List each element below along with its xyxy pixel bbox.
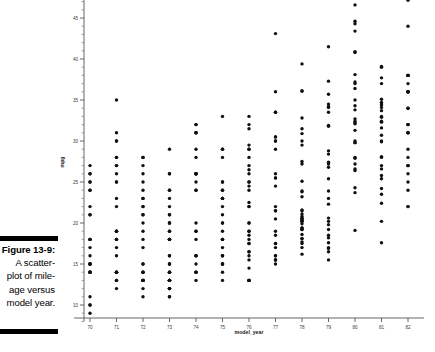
data-point (327, 228, 330, 231)
data-point (327, 234, 330, 237)
data-point (274, 234, 277, 237)
data-point (194, 131, 197, 134)
data-point (88, 254, 91, 257)
data-point (168, 172, 171, 175)
data-point (380, 187, 383, 190)
data-point (221, 156, 224, 159)
data-point (247, 234, 250, 237)
data-point (141, 279, 144, 282)
scatter-plot-figure: 1015202530354045 70717273747576777879808… (0, 0, 435, 352)
data-point (274, 246, 277, 249)
data-point (115, 156, 118, 159)
data-point (406, 82, 409, 85)
data-point (247, 230, 250, 233)
data-point (380, 202, 383, 205)
data-point (380, 193, 383, 196)
data-point (247, 123, 250, 126)
data-point (141, 164, 144, 167)
data-point (247, 164, 250, 167)
data-point (300, 143, 303, 146)
data-point (247, 238, 250, 241)
data-point (327, 197, 330, 200)
data-point (274, 205, 277, 208)
data-point (380, 140, 383, 143)
data-point (115, 139, 118, 142)
y-tick-label: 15 (73, 262, 79, 267)
data-point (221, 271, 224, 274)
data-point (115, 164, 118, 167)
x-axis-title: model_year (235, 329, 264, 335)
data-point (247, 127, 250, 130)
data-point (300, 212, 303, 215)
data-point (194, 254, 197, 257)
data-point (141, 262, 144, 265)
data-point (194, 262, 197, 265)
data-point (141, 180, 144, 183)
data-point (327, 216, 330, 219)
data-point (168, 197, 171, 200)
data-point (141, 230, 144, 233)
data-point (353, 73, 356, 76)
data-point (88, 312, 91, 315)
data-point (168, 254, 171, 257)
data-point (380, 177, 383, 180)
data-point (327, 166, 330, 169)
data-point (88, 164, 91, 167)
data-point (247, 172, 250, 175)
data-point (194, 172, 197, 175)
data-point (221, 197, 224, 200)
data-point (300, 62, 303, 65)
x-tick-label: 75 (220, 325, 226, 330)
data-point (327, 223, 330, 226)
data-point (353, 129, 356, 132)
data-point (353, 162, 356, 165)
data-point (247, 148, 250, 151)
data-point (274, 230, 277, 233)
data-point (300, 116, 303, 119)
y-axis: 1015202530354045 (73, 0, 84, 321)
data-point (141, 246, 144, 249)
data-point (353, 157, 356, 160)
data-point (380, 156, 383, 159)
data-point (141, 213, 144, 216)
y-tick-label: 35 (73, 98, 79, 103)
data-point (194, 189, 197, 192)
y-tick-label: 45 (73, 16, 79, 21)
y-tick-label: 20 (73, 221, 79, 226)
data-point (327, 241, 330, 244)
data-point (88, 180, 91, 183)
data-point (194, 221, 197, 224)
data-point (168, 148, 171, 151)
data-point (327, 258, 330, 261)
data-point (406, 180, 409, 183)
data-point (406, 123, 409, 126)
data-point (327, 45, 330, 48)
data-point (274, 135, 277, 138)
data-point (353, 141, 356, 144)
data-point (168, 221, 171, 224)
x-tick-label: 72 (140, 325, 146, 330)
data-point (380, 120, 383, 123)
x-tick-label: 70 (87, 325, 93, 330)
data-point (141, 295, 144, 298)
data-point (168, 262, 171, 265)
data-point (115, 98, 118, 101)
data-point (168, 230, 171, 233)
data-point (194, 271, 197, 274)
data-point (406, 164, 409, 167)
data-point (221, 180, 224, 183)
data-point (141, 189, 144, 192)
data-point (141, 271, 144, 274)
data-point (327, 111, 330, 114)
data-point (221, 279, 224, 282)
data-point (247, 242, 250, 245)
data-point (115, 197, 118, 200)
data-point (274, 217, 277, 220)
data-point (274, 176, 277, 179)
data-point (353, 229, 356, 232)
data-point (380, 164, 383, 167)
data-point (115, 180, 118, 183)
data-point (115, 172, 118, 175)
data-point (88, 271, 91, 274)
data-point (300, 127, 303, 130)
